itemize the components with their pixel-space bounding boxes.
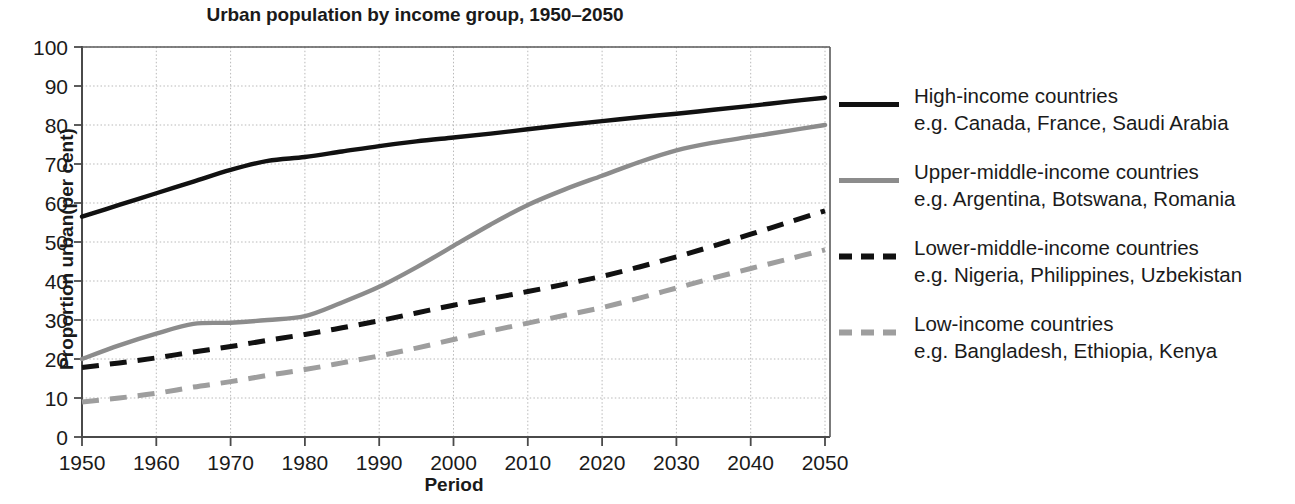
legend-examples: e.g. Canada, France, Saudi Arabia xyxy=(914,109,1290,136)
legend-examples: e.g. Argentina, Botswana, Romania xyxy=(914,185,1290,212)
legend-entry[interactable]: Lower-middle-income countriese.g. Nigeri… xyxy=(838,234,1290,288)
legend-line-sample-icon xyxy=(838,94,900,100)
legend-line-sample-icon xyxy=(838,322,900,328)
chart-page: Urban population by income group, 1950–2… xyxy=(0,0,1295,504)
chart-legend: High-income countriese.g. Canada, France… xyxy=(838,82,1290,386)
y-axis-title: Proportion urban(per cent) xyxy=(56,54,78,444)
legend-label: Lower-middle-income countries xyxy=(914,234,1290,261)
legend-label: Upper-middle-income countries xyxy=(914,158,1290,185)
x-tick-label: 2000 xyxy=(430,451,477,474)
legend-entry[interactable]: Upper-middle-income countriese.g. Argent… xyxy=(838,158,1290,212)
x-tick-label: 1990 xyxy=(356,451,403,474)
x-tick-label: 2050 xyxy=(802,451,849,474)
x-tick-label: 1950 xyxy=(59,451,106,474)
x-tick-label: 2010 xyxy=(504,451,551,474)
legend-label: High-income countries xyxy=(914,82,1290,109)
x-tick-label: 1980 xyxy=(282,451,329,474)
legend-examples: e.g. Bangladesh, Ethiopia, Kenya xyxy=(914,337,1290,364)
x-tick-label: 2030 xyxy=(653,451,700,474)
legend-examples: e.g. Nigeria, Philippines, Uzbekistan xyxy=(914,261,1290,288)
x-tick-label: 1970 xyxy=(207,451,254,474)
legend-line-sample-icon xyxy=(838,170,900,176)
legend-entry[interactable]: High-income countriese.g. Canada, France… xyxy=(838,82,1290,136)
legend-line-sample-icon xyxy=(838,246,900,252)
legend-entry[interactable]: Low-income countriese.g. Bangladesh, Eth… xyxy=(838,310,1290,364)
x-axis-title: Period xyxy=(82,474,826,496)
x-tick-label: 1960 xyxy=(133,451,180,474)
x-tick-label: 2020 xyxy=(579,451,626,474)
x-tick-label: 2040 xyxy=(727,451,774,474)
legend-label: Low-income countries xyxy=(914,310,1290,337)
